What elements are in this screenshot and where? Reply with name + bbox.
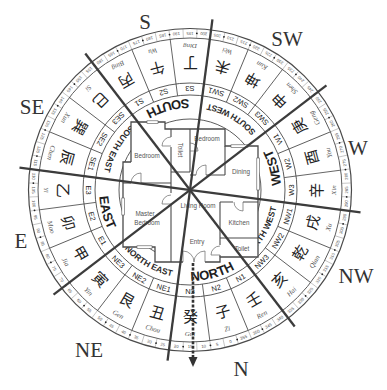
degree-label: 300 [338, 226, 345, 235]
degree-mark: 15 [182, 342, 193, 351]
mountain-pinyin: Qian [308, 254, 322, 271]
mountain-pinyin: Xun [59, 110, 72, 125]
degree-dot-icon [50, 261, 52, 263]
sector-code: NW2 [270, 231, 286, 250]
mountain-character: 辰 [57, 148, 78, 167]
degree-mark: 320 [310, 274, 324, 288]
mountain-character: 申 [268, 89, 291, 112]
degree-label: 270 [338, 145, 345, 154]
degree-dot-icon [129, 334, 131, 336]
mountain-character: 未 [213, 57, 232, 78]
degree-label: 210 [226, 35, 235, 42]
room-label-toilet-top: Toilet [177, 143, 184, 158]
mountain-character: 乾 [288, 243, 311, 265]
degree-mark: 330 [292, 294, 306, 308]
mountain-character: 酉 [302, 148, 323, 167]
degree-mark: 60 [71, 292, 85, 306]
degree-mark: 190 [172, 29, 184, 39]
degree-dot-icon [249, 44, 251, 46]
sector-code: SW2 [231, 94, 250, 110]
degree-label: 60 [76, 297, 83, 304]
degree-mark: 70 [54, 271, 67, 284]
degree-dot-icon [273, 57, 275, 59]
degree-label: 225 [264, 50, 273, 58]
mountain-sector-s2: 午 Wu S2 [132, 42, 173, 104]
degree-mark: 80 [41, 248, 54, 261]
degree-label: 65 [66, 287, 73, 294]
degree-mark: 40 [116, 325, 129, 338]
degree-mark: 140 [56, 92, 70, 106]
degree-label: 125 [39, 132, 46, 141]
degree-dot-icon [223, 36, 225, 38]
degree-mark: 100 [29, 196, 39, 208]
degree-label: 115 [32, 159, 38, 167]
degree-label: 265 [334, 132, 341, 141]
degree-label: 355 [239, 334, 248, 341]
degree-label: 35 [133, 334, 140, 341]
degree-dot-icon [57, 105, 59, 107]
mountain-pinyin: You [324, 146, 335, 158]
degree-dot-icon [32, 182, 34, 184]
degree-label: 350 [252, 328, 261, 336]
degree-mark: 150 [73, 71, 87, 85]
degree-tick [54, 272, 62, 277]
sector-code: SE3 [110, 110, 126, 126]
sector-divider [284, 170, 341, 177]
mountain-pinyin: Gen [111, 308, 126, 321]
degree-label: 40 [121, 329, 128, 336]
window [257, 158, 260, 190]
mountain-pinyin: Chen [45, 145, 57, 162]
window [137, 246, 152, 249]
degree-label: 165 [107, 50, 116, 58]
degree-dot-icon [338, 142, 340, 144]
degree-mark: 55 [81, 301, 95, 315]
degree-label: 205 [213, 32, 221, 38]
mountain-sector-e3: 乙 Yi E3 [39, 183, 96, 210]
mountain-character: 辛 [308, 183, 326, 198]
degree-label: 70 [58, 277, 65, 284]
compass-point-sw: SW [271, 27, 303, 51]
degree-label: 220 [251, 44, 260, 52]
degree-label: 90 [36, 228, 42, 234]
degree-mark: 50 [92, 310, 105, 323]
degree-dot-icon [334, 249, 336, 251]
mountain-pinyin: Xin [330, 185, 338, 196]
direction-label-east: EAST [96, 195, 119, 231]
mountain-character: 寅 [89, 268, 112, 291]
mountain-character: 坤 [243, 68, 265, 91]
degree-label: 255 [322, 107, 330, 116]
degree-dot-icon [155, 342, 157, 344]
degree-label: 285 [344, 186, 349, 194]
degree-label: 200 [199, 31, 207, 37]
mountain-character: 丁 [183, 54, 198, 72]
degree-tick [155, 33, 157, 42]
degree-tick [116, 325, 120, 333]
room-label-bedroom-left: Bedroom [134, 152, 160, 159]
degree-label: 180 [145, 35, 154, 42]
degree-mark: 280 [341, 172, 351, 184]
direction-label-west: WEST [260, 148, 284, 187]
mountain-pinyin: Hai [285, 285, 299, 299]
degree-label: 30 [147, 338, 153, 344]
degree-dot-icon [44, 129, 46, 131]
direction-label-south: SOUTH [144, 96, 190, 121]
mountain-pinyin: Xu [324, 222, 334, 233]
degree-tick [236, 36, 239, 45]
sector-divider [202, 284, 209, 341]
degree-label: 215 [239, 39, 248, 46]
mountain-character: 午 [148, 57, 167, 78]
degree-dot-icon [39, 236, 41, 238]
degree-tick [223, 338, 225, 347]
degree-mark: 230 [274, 56, 288, 70]
mountain-character: 艮 [116, 288, 138, 311]
degree-label: 95 [33, 214, 39, 220]
mountain-pinyin: Wu [147, 46, 158, 56]
degree-dot-icon [34, 209, 36, 211]
degree-label: 130 [44, 120, 52, 129]
sector-code: N2 [210, 282, 222, 293]
degree-label: 75 [51, 265, 58, 272]
degree-dot-icon [116, 50, 118, 52]
degree-dot-icon [344, 169, 346, 171]
degree-tick [71, 293, 78, 299]
degree-label: 190 [172, 31, 180, 37]
